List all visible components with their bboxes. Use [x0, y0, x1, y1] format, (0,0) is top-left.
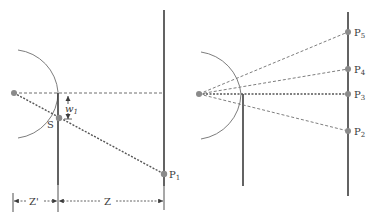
left-panel: S w1 P1 Z' Z: [11, 10, 180, 212]
offset-label: w1: [65, 103, 78, 116]
ray-to-p1: [14, 93, 164, 174]
source-point-right: [196, 91, 202, 97]
point-p2: [345, 128, 351, 134]
p1-label: P1: [169, 169, 180, 182]
ray-to-p4: [199, 69, 348, 94]
ray-to-p5: [199, 32, 348, 94]
slit-label: S: [47, 119, 54, 130]
p4-label: P4: [354, 64, 366, 77]
point-p4: [345, 66, 351, 72]
wavefront-arc-right: [201, 52, 241, 139]
ray-to-p2: [199, 94, 348, 131]
source-point: [11, 90, 17, 96]
p3-label: P3: [354, 89, 365, 102]
dimension-far-label: Z: [104, 196, 111, 207]
p5-label: P5: [354, 27, 365, 40]
point-p1: [161, 171, 167, 177]
point-p3: [345, 91, 351, 97]
dimension-near-label: Z': [29, 196, 39, 207]
point-p5: [345, 29, 351, 35]
diffraction-diagram: S w1 P1 Z' Z P5 P4 P3: [0, 0, 374, 224]
slit-point: [56, 115, 62, 121]
p2-label: P2: [354, 126, 365, 139]
right-panel: P5 P4 P3 P2: [196, 12, 366, 196]
